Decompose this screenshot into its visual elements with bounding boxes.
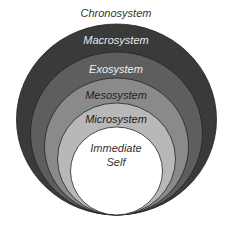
macrosystem-label: Macrosystem xyxy=(83,34,148,46)
chronosystem-label: Chronosystem xyxy=(81,7,152,19)
mesosystem-label: Mesosystem xyxy=(85,89,147,101)
exosystem-label: Exosystem xyxy=(89,63,143,75)
microsystem-label: Microsystem xyxy=(85,113,147,125)
immediate-self-circle xyxy=(71,127,163,215)
ecological-systems-diagram: Chronosystem Macrosystem Exosystem Mesos… xyxy=(0,0,229,228)
immediate-label: Immediate xyxy=(90,142,141,154)
self-label: Self xyxy=(107,156,127,168)
